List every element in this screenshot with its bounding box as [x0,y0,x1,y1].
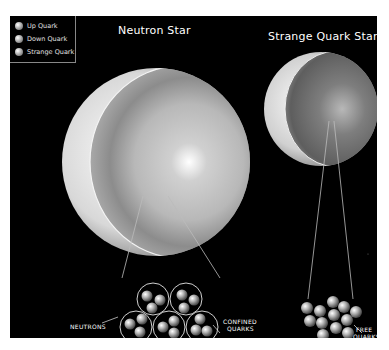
free-label-line1: FREE [353,326,377,333]
legend-item-strange-quark: Strange Quark [15,46,74,58]
diagram-panel: Up Quark Down Quark Strange Quark Neutro… [10,16,377,338]
confined-label-line1: CONFINED [223,318,257,325]
legend-item-down-quark: Down Quark [15,33,67,45]
neutron-star-title: Neutron Star [118,24,191,37]
legend-label: Down Quark [27,35,67,43]
confined-quarks-label: CONFINED QUARKS [223,318,257,332]
legend-label: Up Quark [27,22,58,30]
legend-label: Strange Quark [27,48,74,56]
legend-item-up-quark: Up Quark [15,20,58,32]
neutron-star-sphere [62,66,270,278]
free-quarks-label: FREE QUARKS [353,326,377,338]
neutrons-label: NEUTRONS [70,323,106,330]
strange-quark-icon [15,48,23,56]
diagram-graphics [10,16,377,338]
down-quark-icon [15,35,23,43]
up-quark-icon [15,22,23,30]
strange-star-title: Strange Quark Star [268,30,377,43]
legend: Up Quark Down Quark Strange Quark [10,16,76,63]
strange-star-sphere [264,51,377,299]
free-label-line2: QUARKS [353,333,377,338]
confined-label-line2: QUARKS [223,325,257,332]
